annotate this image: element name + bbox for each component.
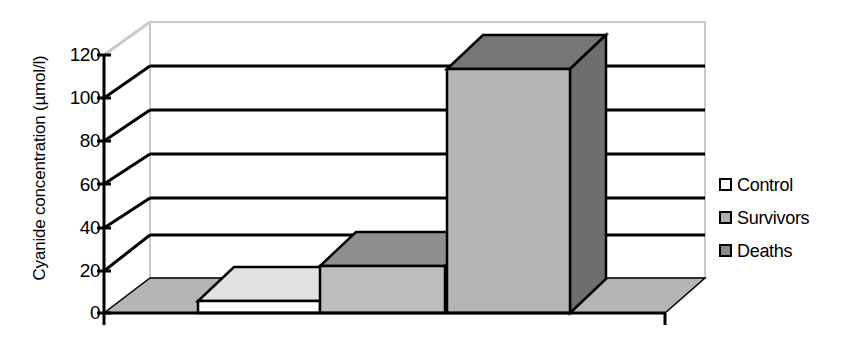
bar-deaths	[447, 35, 606, 313]
legend-label-survivors: Survivors	[737, 209, 809, 227]
legend-swatch-survivors-icon	[719, 211, 732, 224]
bar-control-front	[198, 301, 320, 313]
legend-item-control: Control	[719, 168, 848, 201]
x-axis	[104, 313, 665, 325]
legend-label-control: Control	[737, 176, 793, 194]
depth-connectors	[104, 22, 150, 271]
legend-label-deaths: Deaths	[737, 242, 792, 260]
legend-item-survivors: Survivors	[719, 201, 848, 234]
chart-figure: Cyanide concentration (µmol/l) 120 100 8…	[0, 0, 848, 340]
legend: Control Survivors Deaths	[719, 168, 848, 267]
legend-swatch-deaths-icon	[719, 244, 732, 257]
bar-deaths-front	[447, 69, 570, 313]
bar-survivors-front	[320, 266, 445, 313]
bar-deaths-side	[570, 35, 606, 313]
legend-item-deaths: Deaths	[719, 234, 848, 267]
legend-swatch-control-icon	[719, 178, 732, 191]
